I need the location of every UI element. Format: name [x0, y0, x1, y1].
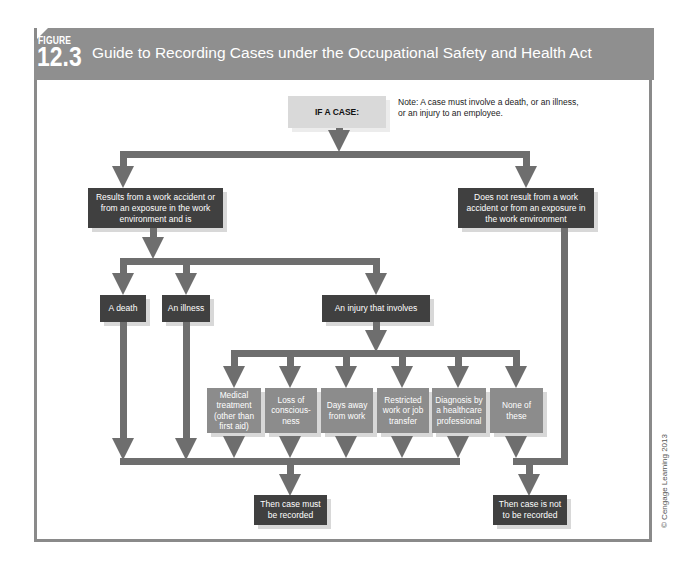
- injury-none: None of these: [490, 388, 543, 433]
- injury-diagnosis: Diagnosis by a healthcare professional: [432, 388, 486, 433]
- arrow-down-icon: [112, 166, 134, 188]
- arrow-down-icon: [279, 366, 301, 388]
- figure-number: 12.3: [37, 44, 82, 71]
- arrow-down-icon: [142, 237, 164, 259]
- arrow-down-icon: [447, 436, 469, 458]
- start-box: IF A CASE:: [288, 96, 386, 128]
- connector-bar: [231, 350, 520, 357]
- connector: [561, 228, 568, 465]
- injury-restricted-work: Restricted work or job transfer: [377, 388, 429, 433]
- connector: [183, 322, 190, 442]
- arrow-down-icon: [515, 166, 537, 188]
- injury-days-away: Days away from work: [321, 388, 373, 433]
- arrow-down-icon: [365, 330, 387, 352]
- case-death: A death: [100, 295, 146, 322]
- connector-bar: [120, 151, 530, 158]
- arrow-down-icon: [223, 366, 245, 388]
- branch-not-work-related: Does not result from a work accident or …: [458, 188, 594, 228]
- figure-title: Guide to Recording Cases under the Occup…: [92, 44, 592, 62]
- outcome-recorded: Then case must be recorded: [254, 495, 327, 525]
- arrow-down-icon: [223, 436, 245, 458]
- arrow-down-icon: [112, 438, 134, 460]
- arrow-down-icon: [328, 130, 350, 152]
- arrow-down-icon: [279, 474, 301, 496]
- arrow-down-icon: [112, 273, 134, 295]
- arrow-down-icon: [505, 366, 527, 388]
- arrow-down-icon: [335, 366, 357, 388]
- arrow-down-icon: [175, 273, 197, 295]
- connector-bar: [120, 258, 380, 265]
- outcome-not-recorded: Then case is not to be recorded: [493, 495, 567, 525]
- arrow-down-icon: [279, 436, 301, 458]
- arrow-down-icon: [335, 436, 357, 458]
- arrow-down-icon: [518, 474, 540, 496]
- case-illness: An illness: [162, 295, 210, 322]
- connector: [120, 322, 127, 442]
- arrow-down-icon: [175, 438, 197, 460]
- arrow-down-icon: [505, 436, 527, 458]
- arrow-down-icon: [391, 436, 413, 458]
- copyright-text: © Cengage Learning 2013: [660, 434, 669, 528]
- injury-loss-of-consciousness: Loss of conscious-ness: [265, 388, 317, 433]
- note-text: Note: A case must involve a death, or an…: [398, 97, 588, 119]
- branch-work-related: Results from a work accident or from an …: [88, 188, 223, 228]
- connector-bar: [513, 458, 568, 465]
- case-injury: An injury that involves: [322, 295, 430, 322]
- arrow-down-icon: [365, 273, 387, 295]
- injury-medical-treatment: Medical treatment (other than first aid): [207, 388, 261, 433]
- arrow-down-icon: [391, 366, 413, 388]
- arrow-down-icon: [447, 366, 469, 388]
